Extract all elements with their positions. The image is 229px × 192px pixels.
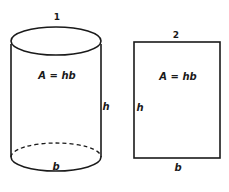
cylinder-number-label: 1 [54,13,60,22]
diagram-figure: 1 A = hb h b 2 A = hb h b [0,0,229,192]
cylinder-shape [11,27,101,171]
cylinder-area-formula: A = hb [38,71,75,81]
cylinder-top-ellipse [11,27,101,55]
diagram-drawing [0,0,229,192]
rectangle-number-label: 2 [173,31,179,40]
cylinder-bottom-back-arc-dashed [11,143,101,157]
cylinder-base-label: b [52,162,59,172]
rectangle-base-label: b [174,163,181,173]
rectangle-area-formula: A = hb [159,72,196,82]
rectangle-height-label: h [136,103,143,113]
cylinder-height-label: h [102,102,109,112]
rectangle-shape [134,42,220,158]
